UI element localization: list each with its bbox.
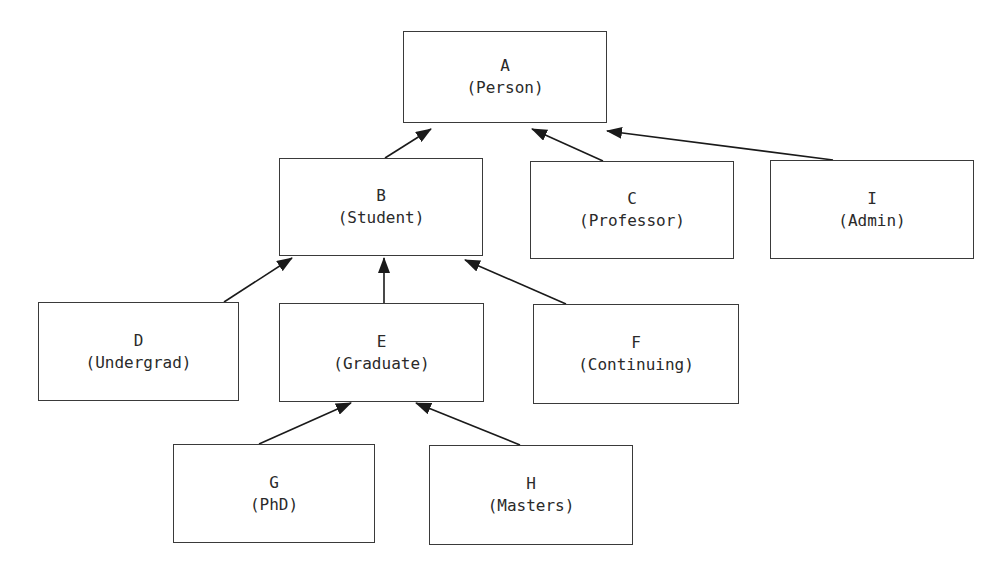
- node-b-student: B (Student): [279, 158, 483, 256]
- edge-c-to-a: [532, 129, 603, 161]
- edge-h-to-e: [416, 403, 520, 445]
- edge-f-to-b: [465, 260, 566, 304]
- node-label: (PhD): [250, 494, 298, 516]
- node-label: (Person): [466, 77, 543, 99]
- node-label: (Graduate): [333, 353, 429, 375]
- node-letter: C: [627, 188, 637, 210]
- node-h-masters: H (Masters): [429, 445, 633, 545]
- node-i-admin: I (Admin): [770, 160, 974, 259]
- node-letter: A: [500, 55, 510, 77]
- edge-i-to-a: [607, 131, 833, 160]
- node-d-undergrad: D (Undergrad): [38, 302, 239, 401]
- node-label: (Continuing): [578, 354, 694, 376]
- node-a-person: A (Person): [403, 31, 607, 123]
- edge-d-to-b: [224, 258, 292, 302]
- edge-g-to-e: [259, 403, 351, 444]
- node-e-graduate: E (Graduate): [279, 303, 484, 402]
- node-letter: H: [526, 473, 536, 495]
- node-g-phd: G (PhD): [173, 444, 375, 543]
- edge-b-to-a: [385, 129, 431, 158]
- node-letter: G: [269, 472, 279, 494]
- node-letter: I: [867, 188, 877, 210]
- node-c-professor: C (Professor): [530, 161, 734, 259]
- node-label: (Admin): [838, 210, 905, 232]
- node-label: (Student): [338, 207, 425, 229]
- class-hierarchy-diagram: A (Person) B (Student) C (Professor) I (…: [0, 0, 1008, 574]
- node-letter: F: [631, 332, 641, 354]
- node-f-continuing: F (Continuing): [533, 304, 739, 404]
- node-label: (Professor): [579, 210, 685, 232]
- node-letter: B: [376, 185, 386, 207]
- node-label: (Masters): [488, 495, 575, 517]
- node-letter: E: [377, 331, 387, 353]
- node-letter: D: [134, 330, 144, 352]
- node-label: (Undergrad): [86, 352, 192, 374]
